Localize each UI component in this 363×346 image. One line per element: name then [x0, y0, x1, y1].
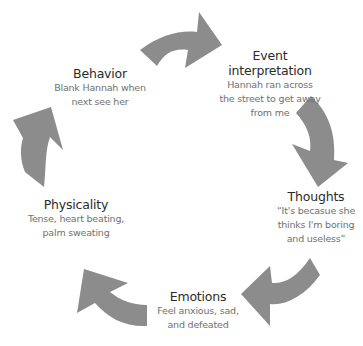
- arrow-physicality-to-behavior-icon: [13, 107, 63, 187]
- node-event-desc-line3: from me: [210, 106, 330, 120]
- node-thoughts-desc-line2: thinks I'm boring: [258, 218, 363, 232]
- node-emotions-title: Emotions: [145, 289, 251, 304]
- node-behavior-title: Behavior: [40, 66, 160, 81]
- node-event-interpretation: Event interpretation Hannah ran across t…: [210, 48, 330, 119]
- node-emotions-desc-line1: Feel anxious, sad,: [145, 304, 251, 318]
- node-behavior-desc-line1: Blank Hannah when: [40, 81, 160, 95]
- node-thoughts-desc-line1: “It's becasue she: [258, 204, 363, 218]
- node-physicality-title: Physicality: [16, 197, 136, 212]
- arrow-thoughts-to-emotions-icon: [241, 258, 320, 326]
- node-behavior: Behavior Blank Hannah when next see her: [40, 66, 160, 109]
- node-physicality-desc-line2: palm sweating: [16, 226, 136, 240]
- node-event-desc-line2: the street to get away: [210, 92, 330, 106]
- node-physicality-desc-line1: Tense, heart beating,: [16, 212, 136, 226]
- node-event-desc-line1: Hannah ran across: [210, 78, 330, 92]
- node-behavior-desc-line2: next see her: [40, 95, 160, 109]
- node-emotions-desc-line2: and defeated: [145, 318, 251, 332]
- arrow-emotions-to-physicality-icon: [77, 269, 147, 326]
- node-emotions: Emotions Feel anxious, sad, and defeated: [145, 289, 251, 332]
- node-thoughts-desc-line3: and useless”: [258, 232, 363, 246]
- node-thoughts: Thoughts “It's becasue she thinks I'm bo…: [258, 189, 363, 245]
- node-physicality: Physicality Tense, heart beating, palm s…: [16, 197, 136, 240]
- node-event-title-line1: Event: [210, 48, 330, 63]
- node-event-title-line2: interpretation: [210, 63, 330, 78]
- node-thoughts-title: Thoughts: [258, 189, 363, 204]
